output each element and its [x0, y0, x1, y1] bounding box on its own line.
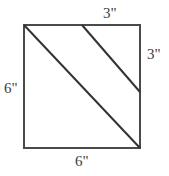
dimension-label-left-side: 6" — [4, 81, 18, 96]
dimension-label-top-right: 3" — [103, 6, 117, 21]
dimension-label-right-side: 3" — [147, 47, 161, 62]
dimension-label-bottom: 6" — [75, 154, 89, 169]
geometry-figure: 3" 3" 6" 6" — [0, 0, 169, 176]
figure-canvas — [0, 0, 169, 176]
